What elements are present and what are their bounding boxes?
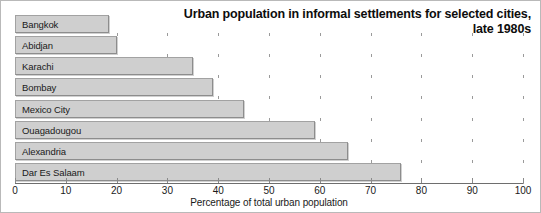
axis-tick [523, 178, 524, 183]
axis-tick [371, 178, 372, 183]
bar: Mexico City [15, 100, 244, 118]
axis-tick [218, 178, 219, 183]
axis-tick [472, 178, 473, 183]
bar-category-label: Karachi [22, 61, 54, 72]
axis-tick-label: 80 [416, 185, 427, 196]
axis-tick-label: 60 [314, 185, 325, 196]
bar-row: Abidjan [15, 34, 523, 55]
x-axis-line [15, 183, 523, 184]
bar: Karachi [15, 57, 193, 75]
axis-tick-label: 20 [111, 185, 122, 196]
bar-row: Alexandria [15, 141, 523, 162]
axis-tick-label: 30 [162, 185, 173, 196]
bar-category-label: Alexandria [22, 146, 66, 157]
axis-tick-label: 70 [365, 185, 376, 196]
axis-tick [15, 178, 16, 183]
bar: Abidjan [15, 36, 117, 54]
bar-row: Mexico City [15, 98, 523, 119]
inner-tick [523, 75, 524, 78]
bar: Bangkok [15, 15, 109, 33]
inner-tick [523, 118, 524, 121]
x-axis-ticks [15, 178, 523, 183]
axis-tick [320, 178, 321, 183]
axis-tick-label: 50 [263, 185, 274, 196]
bar-category-label: Bombay [22, 82, 56, 93]
chart-figure: Urban population in informal settlements… [0, 0, 541, 213]
axis-tick-label: 40 [213, 185, 224, 196]
bar: Alexandria [15, 142, 348, 160]
bar-category-label: Dar Es Salaam [22, 167, 85, 178]
axis-tick [167, 178, 168, 183]
inner-tick [523, 160, 524, 163]
bar-series: BangkokAbidjanKarachiBombayMexico CityOu… [15, 13, 523, 183]
bar-category-label: Ouagadougou [22, 124, 81, 135]
axis-tick-label: 0 [12, 185, 18, 196]
bar-row: Karachi [15, 56, 523, 77]
axis-tick [117, 178, 118, 183]
axis-tick-label: 90 [467, 185, 478, 196]
bar-row: Bangkok [15, 13, 523, 34]
axis-tick-label: 10 [60, 185, 71, 196]
bar-category-label: Mexico City [22, 103, 70, 114]
axis-tick [66, 178, 67, 183]
axis-tick [421, 178, 422, 183]
bar-category-label: Bangkok [22, 18, 58, 29]
inner-tick [523, 139, 524, 142]
inner-tick [523, 54, 524, 57]
bar: Ouagadougou [15, 121, 315, 139]
bar-row: Bombay [15, 77, 523, 98]
axis-tick [269, 178, 270, 183]
inner-tick [523, 96, 524, 99]
x-axis-title: Percentage of total urban population [15, 197, 523, 208]
bar-category-label: Abidjan [22, 39, 53, 50]
bar-row: Ouagadougou [15, 119, 523, 140]
bar: Bombay [15, 78, 213, 96]
plot-area: BangkokAbidjanKarachiBombayMexico CityOu… [15, 13, 523, 183]
axis-tick-label: 100 [515, 185, 532, 196]
